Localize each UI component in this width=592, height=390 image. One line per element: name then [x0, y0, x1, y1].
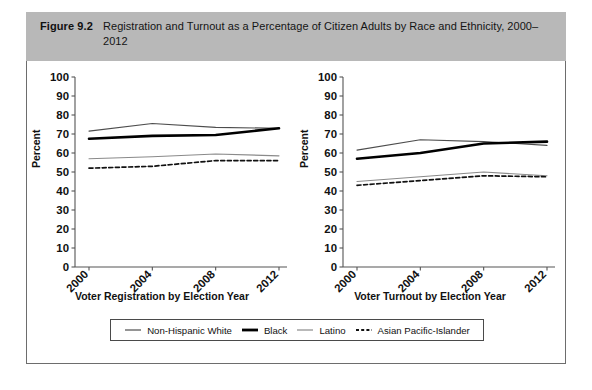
y-tick-label: 0 [331, 261, 337, 273]
y-tick-label: 80 [324, 109, 337, 121]
plot-area-registration: 01020304050607080901002000200420082012 [45, 69, 291, 321]
y-tick-label: 10 [56, 242, 69, 254]
chart-legend: Non-Hispanic WhiteBlackLatinoAsian Pacif… [110, 319, 484, 341]
figure-caption-bar: Figure 9.2 Registration and Turnout as a… [26, 12, 566, 61]
y-tick-label: 70 [56, 128, 69, 140]
y-tick-label: 100 [50, 71, 69, 83]
legend-item: Black [241, 325, 287, 336]
y-tick-label: 100 [318, 71, 337, 83]
y-tick-label: 40 [56, 185, 69, 197]
y-tick-label: 30 [324, 204, 337, 216]
y-tick-label: 50 [56, 166, 69, 178]
y-tick-label: 80 [56, 109, 69, 121]
y-axis-label-left: Percent [30, 154, 42, 168]
y-tick-label: 70 [324, 128, 337, 140]
y-tick-label: 60 [56, 147, 69, 159]
x-axis-title-right: Voter Turnout by Election Year [299, 290, 561, 302]
y-tick-label: 40 [324, 185, 337, 197]
y-tick-label: 20 [324, 223, 337, 235]
chart-voter-turnout: Percent 01020304050607080901002000200420… [299, 69, 561, 321]
legend-label: Latino [319, 325, 345, 336]
legend-swatch-thin-solid [296, 326, 314, 334]
legend-swatch-dashed [355, 326, 373, 334]
y-tick-label: 30 [56, 204, 69, 216]
legend-label: Non-Hispanic White [147, 325, 232, 336]
legend-swatch-thick-solid [241, 326, 259, 334]
series-line-asian-pacific-islander [357, 176, 547, 186]
series-line-black [89, 128, 279, 138]
figure-number-label: Figure 9.2 [40, 19, 93, 34]
y-tick-label: 10 [324, 242, 337, 254]
chart-panel: Percent 01020304050607080901002000200420… [26, 61, 566, 364]
plot-area-turnout: 01020304050607080901002000200420082012 [313, 69, 559, 321]
legend-item: Asian Pacific-Islander [355, 325, 470, 336]
legend-swatch-thin-solid [124, 326, 142, 334]
y-tick-label: 0 [63, 261, 69, 273]
y-tick-label: 20 [56, 223, 69, 235]
x-axis-title-left: Voter Registration by Election Year [31, 290, 293, 302]
y-tick-label: 60 [324, 147, 337, 159]
chart-voter-registration: Percent 01020304050607080901002000200420… [31, 69, 293, 321]
y-tick-label: 50 [324, 166, 337, 178]
y-axis-label-right: Percent [298, 154, 310, 168]
figure-title-text: Registration and Turnout as a Percentage… [103, 19, 554, 49]
y-tick-label: 90 [324, 90, 337, 102]
series-line-latino [89, 154, 279, 159]
legend-item: Latino [296, 325, 345, 336]
series-line-asian-pacific-islander [89, 161, 279, 169]
legend-label: Black [264, 325, 287, 336]
legend-label: Asian Pacific-Islander [378, 325, 470, 336]
y-tick-label: 90 [56, 90, 69, 102]
legend-item: Non-Hispanic White [124, 325, 232, 336]
figure-container: Figure 9.2 Registration and Turnout as a… [26, 12, 566, 364]
